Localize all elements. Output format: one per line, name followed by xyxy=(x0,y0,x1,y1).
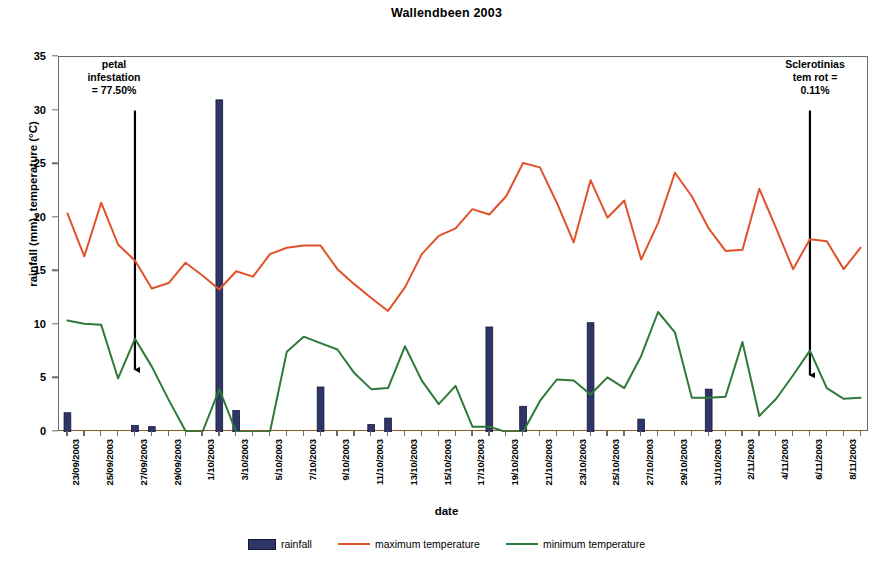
page-title: Wallendbeen 2003 xyxy=(0,6,893,20)
x-axis-tick-label: 3/10/2003 xyxy=(239,439,250,480)
annotation-arrows xyxy=(135,111,810,376)
x-axis-tick-mark xyxy=(134,431,135,436)
chart-legend: rainfallmaximum temperatureminimum tempe… xyxy=(0,538,893,550)
x-axis-tick-mark xyxy=(100,431,101,436)
x-axis-tick-label: 4/11/2003 xyxy=(779,439,790,480)
annotation-sclerotinia-stem-rot: Sclerotinias tem rot = 0.11% xyxy=(760,58,870,97)
x-axis-tick-mark xyxy=(218,431,219,436)
x-axis-tick-mark xyxy=(741,431,742,436)
annotation-line-1: Sclerotinias xyxy=(760,58,870,71)
x-axis-tick-mark xyxy=(370,431,371,436)
x-axis-tick-label: 5/10/2003 xyxy=(273,439,284,480)
x-axis-tick-mark xyxy=(590,431,591,436)
x-axis-tick-mark xyxy=(185,431,186,436)
x-axis-tick-label: 23/10/2003 xyxy=(577,439,588,486)
x-axis-tick-mark xyxy=(320,431,321,436)
maximum-temperature-line xyxy=(67,163,860,311)
x-axis-tick-mark xyxy=(235,431,236,436)
x-axis-tick-mark xyxy=(252,431,253,436)
x-axis-tick-mark xyxy=(775,431,776,436)
annotation-petal-infestation: petal infestation = 77.50% xyxy=(64,58,164,97)
legend-label: rainfall xyxy=(281,538,312,550)
rainfall-bar xyxy=(216,100,223,432)
x-axis-label: date xyxy=(0,505,893,517)
x-axis-tick-label: 29/10/2003 xyxy=(678,439,689,486)
legend-bar-swatch xyxy=(248,539,276,550)
x-axis-tick-mark xyxy=(455,431,456,436)
legend-item: rainfall xyxy=(248,538,312,550)
max-temp-path xyxy=(67,163,860,311)
x-axis-tick-mark xyxy=(83,431,84,436)
x-axis-tick-mark xyxy=(336,431,337,436)
x-axis-tick-label: 25/10/2003 xyxy=(610,439,621,486)
x-axis-tick-label: 2/11/2003 xyxy=(745,439,756,480)
x-axis-tick-label: 17/10/2003 xyxy=(475,439,486,486)
x-axis-tick-mark xyxy=(860,431,861,436)
x-axis-tick-mark xyxy=(286,431,287,436)
x-axis-tick-label: 29/09/2003 xyxy=(172,439,183,486)
plot-canvas xyxy=(59,57,869,432)
x-axis-tick-mark xyxy=(826,431,827,436)
x-axis-tick-mark xyxy=(353,431,354,436)
rainfall-bar xyxy=(705,389,712,432)
annotation-line-2: tem rot = xyxy=(760,71,870,84)
annotation-line-2: infestation xyxy=(64,71,164,84)
y-axis-label: rainfall (mm), temperature (°C) xyxy=(27,79,39,329)
x-axis-tick-mark xyxy=(725,431,726,436)
x-axis-tick-mark xyxy=(201,431,202,436)
x-axis-tick-label: 27/09/2003 xyxy=(138,439,149,486)
x-axis-tick-mark xyxy=(269,431,270,436)
x-axis-tick-label: 15/10/2003 xyxy=(442,439,453,486)
x-axis-tick-mark xyxy=(809,431,810,436)
x-axis-tick-mark xyxy=(640,431,641,436)
x-axis-tick-mark xyxy=(505,431,506,436)
x-axis-tick-label: 9/10/2003 xyxy=(340,439,351,480)
rainfall-bar xyxy=(233,411,240,432)
x-axis-tick-mark xyxy=(758,431,759,436)
x-axis-tick-mark xyxy=(421,431,422,436)
x-axis-tick-mark xyxy=(674,431,675,436)
x-axis-tick-mark xyxy=(151,431,152,436)
x-axis-tick-mark xyxy=(708,431,709,436)
figure-root: Wallendbeen 2003 05101520253035 rainfall… xyxy=(0,0,893,573)
x-axis-tick-label: 1/10/2003 xyxy=(205,439,216,480)
x-axis-tick-mark xyxy=(404,431,405,436)
x-axis-tick-label: 7/10/2003 xyxy=(307,439,318,480)
x-axis-tick-mark xyxy=(539,431,540,436)
x-axis-tick-mark xyxy=(387,431,388,436)
legend-label: minimum temperature xyxy=(543,538,645,550)
annotation-line-3: 0.11% xyxy=(760,84,870,97)
x-axis-tick-label: 21/10/2003 xyxy=(543,439,554,486)
rainfall-bar xyxy=(317,387,324,432)
legend-line-swatch xyxy=(338,543,370,545)
x-axis-tick-label: 8/11/2003 xyxy=(847,439,858,480)
x-axis-tick-label: 23/09/2003 xyxy=(70,439,81,486)
x-axis-tick-mark xyxy=(303,431,304,436)
x-axis-tick-label: 13/10/2003 xyxy=(408,439,419,486)
x-axis-tick-label: 31/10/2003 xyxy=(712,439,723,486)
x-axis-tick-label: 19/10/2003 xyxy=(509,439,520,486)
x-axis-tick-mark xyxy=(117,431,118,436)
x-axis-tick-label: 11/10/2003 xyxy=(374,439,385,485)
x-axis-tick-mark xyxy=(792,431,793,436)
x-axis-tick-label: 25/09/2003 xyxy=(104,439,115,486)
y-axis-tick-label: 0 xyxy=(16,425,46,437)
x-axis-tick-mark xyxy=(438,431,439,436)
x-axis-tick-mark xyxy=(471,431,472,436)
min-temp-path xyxy=(67,312,860,432)
x-axis-tick-mark xyxy=(657,431,658,436)
annotation-line-3: = 77.50% xyxy=(64,84,164,97)
x-axis-tick-mark xyxy=(168,431,169,436)
legend-item: minimum temperature xyxy=(506,538,645,550)
x-axis-tick-mark xyxy=(573,431,574,436)
legend-label: maximum temperature xyxy=(375,538,480,550)
y-axis-tick-label: 35 xyxy=(16,50,46,62)
x-axis-tick-mark xyxy=(556,431,557,436)
x-axis-tick-mark xyxy=(843,431,844,436)
x-axis-tick-mark xyxy=(522,431,523,436)
plot-area xyxy=(58,56,868,431)
x-axis-tick-label: 6/11/2003 xyxy=(813,439,824,480)
x-axis-tick-label: 27/10/2003 xyxy=(644,439,655,486)
y-axis-tick-label: 5 xyxy=(16,371,46,383)
legend-item: maximum temperature xyxy=(338,538,480,550)
